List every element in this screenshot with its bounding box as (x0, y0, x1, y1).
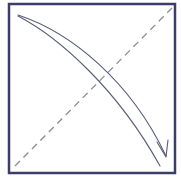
fold-diagram (0, 0, 181, 177)
